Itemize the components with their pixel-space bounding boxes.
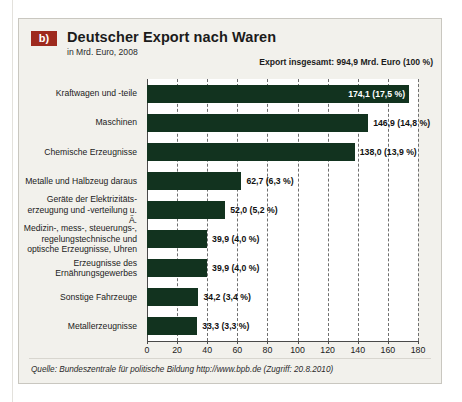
bar-value-label: 39,9 (4,0 %) (212, 259, 259, 277)
bar-row: 52,0 (5,2 %) (147, 195, 418, 224)
category-label-text: Kraftwagen und -teile (56, 88, 141, 99)
bar (147, 317, 197, 335)
figure-subtitle: in Mrd. Euro, 2008 (67, 47, 138, 57)
bar-row: 146,9 (14,8 %) (147, 108, 418, 137)
bar-value-label: 146,9 (14,8 %) (373, 114, 430, 132)
bar-row: 34,2 (3,4 %) (147, 283, 418, 312)
x-tick (418, 341, 419, 344)
category-label: Geräte der Elektrizitäts- erzeugung und … (19, 195, 141, 224)
figure-badge: b) (31, 31, 57, 46)
category-label: Kraftwagen und -teile (19, 79, 141, 108)
footer-divider (29, 358, 431, 359)
bar (147, 114, 368, 132)
bar-value-label: 138,0 (13,9 %) (360, 143, 417, 161)
bar (147, 230, 207, 248)
x-tick (358, 341, 359, 344)
total-export-annotation: Export insgesamt: 994,9 Mrd. Euro (100 %… (259, 57, 433, 67)
bar-value-label: 52,0 (5,2 %) (230, 201, 277, 219)
x-tick-label: 180 (411, 345, 426, 355)
x-tick (388, 341, 389, 344)
bar (147, 143, 355, 161)
bar-value-label: 62,7 (6,3 %) (246, 172, 293, 190)
page-gutter-rule (12, 0, 13, 402)
category-label: Erzeugnisse des Ernährungsgewerbes (19, 254, 141, 283)
bar-row: 62,7 (6,3 %) (147, 166, 418, 195)
category-label-column: Kraftwagen und -teileMaschinenChemische … (19, 79, 143, 341)
category-label: Sonstige Fahrzeuge (19, 283, 141, 312)
x-tick (237, 341, 238, 344)
category-label-text: Medizin-, mess-, steuerungs-, regelungst… (24, 223, 141, 255)
bar-value-label: 39,9 (4,0 %) (212, 230, 259, 248)
category-label-text: Metallerzeugnisse (68, 321, 141, 332)
category-label-text: Geräte der Elektrizitäts- erzeugung und … (19, 194, 141, 226)
bar-row: 174,1 (17,5 %) (147, 79, 418, 108)
category-label: Chemische Erzeugnisse (19, 137, 141, 166)
category-label: Metalle und Halbzeug daraus (19, 166, 141, 195)
x-tick (328, 341, 329, 344)
category-label-text: Metalle und Halbzeug daraus (25, 176, 141, 187)
bar-row: 39,9 (4,0 %) (147, 225, 418, 254)
x-axis-line (147, 341, 418, 342)
x-tick-label: 80 (263, 345, 273, 355)
bar (147, 201, 225, 219)
x-tick (207, 341, 208, 344)
x-tick (147, 341, 148, 344)
category-label: Metallerzeugnisse (19, 312, 141, 341)
category-label-text: Erzeugnisse des Ernährungsgewerbes (55, 258, 141, 279)
bar (147, 288, 198, 306)
figure-panel: b) Deutscher Export nach Waren in Mrd. E… (18, 18, 442, 384)
bar-row: 39,9 (4,0 %) (147, 254, 418, 283)
x-tick-label: 160 (381, 345, 396, 355)
category-label: Medizin-, mess-, steuerungs-, regelungst… (19, 225, 141, 254)
bar (147, 259, 207, 277)
bar-value-label: 34,2 (3,4 %) (203, 288, 250, 306)
x-tick (267, 341, 268, 344)
x-tick (298, 341, 299, 344)
figure-title: Deutscher Export nach Waren (67, 29, 276, 45)
x-tick (177, 341, 178, 344)
x-tick-label: 100 (290, 345, 305, 355)
x-tick-label: 140 (350, 345, 365, 355)
bar-value-label: 33,3 (3,3 %) (202, 317, 249, 335)
category-label-text: Chemische Erzeugnisse (44, 147, 141, 158)
x-tick-label: 20 (172, 345, 182, 355)
x-tick-label: 60 (232, 345, 242, 355)
page-canvas: b) Deutscher Export nach Waren in Mrd. E… (0, 0, 462, 402)
category-label-text: Sonstige Fahrzeuge (60, 292, 141, 303)
x-tick-label: 0 (145, 345, 150, 355)
bar-value-label: 174,1 (17,5 %) (348, 85, 405, 103)
source-note: Quelle: Bundeszentrale für politische Bi… (31, 365, 333, 374)
bar-chart: Kraftwagen und -teileMaschinenChemische … (19, 71, 441, 361)
x-tick-label: 40 (202, 345, 212, 355)
bar-row: 33,3 (3,3 %) (147, 312, 418, 341)
category-label: Maschinen (19, 108, 141, 137)
bar (147, 172, 241, 190)
category-label-text: Maschinen (95, 117, 141, 128)
plot-area: 174,1 (17,5 %)146,9 (14,8 %)138,0 (13,9 … (147, 79, 418, 341)
bar-row: 138,0 (13,9 %) (147, 137, 418, 166)
x-tick-label: 120 (320, 345, 335, 355)
